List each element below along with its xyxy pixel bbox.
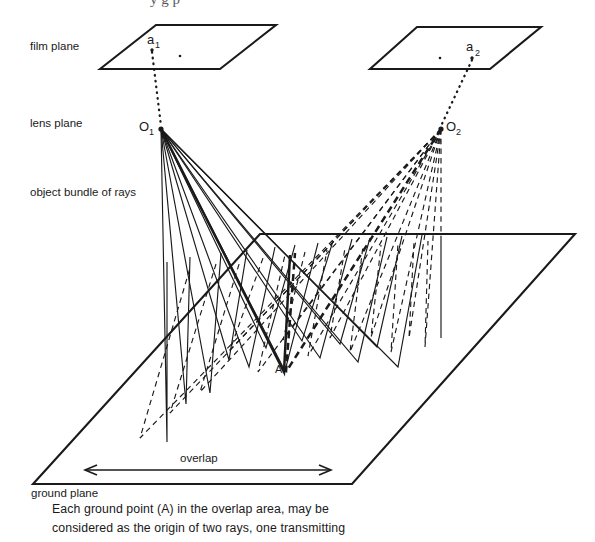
- image-point-a1-label: a: [147, 32, 155, 47]
- perspective-centre-o1-dot: [158, 126, 163, 131]
- film-plane-label: film plane: [30, 40, 79, 52]
- figure-caption-line-1: Each ground point (A) in the overlap are…: [52, 500, 532, 519]
- image-point-a2-subscript: 2: [475, 48, 480, 58]
- ground-plane-label: ground plane: [31, 487, 98, 499]
- perspective-centre-o2-label: O: [446, 119, 456, 134]
- perspective-centre-o2-dot: [438, 126, 443, 131]
- ground-plane-shape: [33, 234, 575, 484]
- figure-root: y g p: [0, 0, 595, 542]
- perspective-centre-o1-subscript: 1: [149, 127, 154, 137]
- image-point-a2-label: a: [466, 39, 474, 54]
- film-plane-right-shape: [370, 27, 541, 69]
- image-point-a1-subscript: 1: [155, 40, 160, 50]
- object-bundle-label: object bundle of rays: [30, 186, 136, 198]
- overlap-label: overlap: [180, 452, 218, 464]
- film-plane-left-shape: [100, 25, 276, 69]
- ground-point-a-label: A: [275, 363, 283, 375]
- lens-plane-label: lens plane: [30, 117, 82, 129]
- principal-point-right-dot: [439, 57, 442, 60]
- perspective-centre-o1-label: O: [139, 119, 149, 134]
- photogrammetry-overlap-diagram: film plane lens plane object bundle of r…: [0, 0, 595, 542]
- principal-point-left-dot: [179, 55, 182, 58]
- figure-caption: Each ground point (A) in the overlap are…: [52, 500, 532, 537]
- figure-caption-line-2: considered as the origin of two rays, on…: [52, 519, 532, 538]
- perspective-centre-o2-subscript: 2: [456, 127, 461, 137]
